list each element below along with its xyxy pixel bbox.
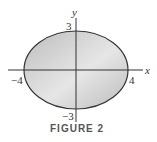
ellipse-diagram: x y 3 −3 −4 4 FIGURE 2 [0, 0, 157, 142]
figure-caption: FIGURE 2 [50, 123, 104, 134]
y-axis-label: y [71, 6, 77, 18]
tick-x-neg: −4 [11, 74, 23, 86]
tick-y-neg: −3 [62, 110, 74, 122]
x-axis-label: x [144, 64, 150, 76]
tick-x-pos: 4 [129, 74, 135, 86]
tick-y-pos: 3 [66, 20, 72, 32]
